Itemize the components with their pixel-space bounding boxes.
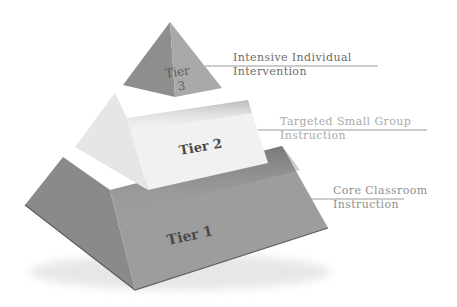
pyramid-graphic: Tier 1 Tier 2 Tier 3 (0, 0, 457, 307)
tier-3-block[interactable]: Tier 3 (123, 22, 222, 97)
tier-1-description: Core Classroom Instruction (333, 185, 428, 210)
tier-3-description: Intensive Individual Intervention (233, 52, 352, 77)
tier-2-description-line2: Instruction (280, 130, 411, 141)
tier-3-description-line2: Intervention (233, 66, 352, 77)
tier-3-left-face (123, 22, 175, 97)
tier-1-description-line2: Instruction (333, 199, 428, 210)
tier-2-description: Targeted Small Group Instruction (280, 116, 411, 141)
pyramid-diagram: Tier 1 Tier 2 Tier 3 Intensive Individua… (0, 0, 457, 307)
